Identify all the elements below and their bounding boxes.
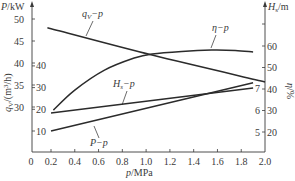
left-axis-arrow [30, 1, 34, 7]
x-axis-title: p/MPa [125, 167, 153, 178]
x-tick-label: 1.8 [235, 156, 248, 167]
x-tick-label: 0.2 [45, 156, 58, 167]
eta-tick-label: 20 [267, 127, 277, 138]
curve-label-qv: qV−p [82, 8, 103, 21]
right-axis-arrow [263, 1, 267, 7]
curve-label-eta: η−p [212, 22, 229, 33]
hs-axis-title: Hs/m [267, 1, 289, 14]
x-tick-label: 1.6 [211, 156, 224, 167]
leader-eta [211, 35, 216, 48]
x-tick-label: 0 [29, 156, 34, 167]
hs-tick-label: 6 [255, 105, 260, 116]
p-tick-label: 20 [36, 104, 46, 115]
hs-tick-label: 7 [255, 83, 260, 94]
eta-tick-label: 60 [267, 41, 277, 52]
hs-p-curve [51, 88, 253, 113]
leader-hs [122, 91, 127, 105]
eta-tick-label: 30 [267, 105, 277, 116]
qv-tick-label: 45 [14, 36, 24, 47]
eta-tick-label: 40 [267, 84, 277, 95]
x-tick-label: 0.4 [69, 156, 82, 167]
curve-label-P: P−p [89, 137, 108, 148]
curves [47, 28, 265, 131]
eta-tick-label: 50 [267, 62, 277, 73]
qv-p-curve [47, 28, 265, 82]
leader-qv [86, 21, 93, 36]
axis-ticks [32, 19, 265, 152]
qv-tick-label: 35 [14, 80, 24, 91]
curve-label-hs: Hs−p [112, 78, 135, 91]
x-tick-label: 1.2 [164, 156, 177, 167]
p-tick-label: 40 [36, 60, 46, 71]
p-kw-axis-title: P/kW [0, 1, 25, 12]
x-tick-label: 2.0 [259, 156, 272, 167]
x-tick-label: 1.4 [187, 156, 200, 167]
p-tick-label: 10 [36, 126, 46, 137]
x-tick-label: 0.6 [92, 156, 105, 167]
qv-tick-label: 50 [14, 14, 24, 25]
eta-axis-title: η/% [285, 83, 295, 99]
qv-tick-label: 40 [14, 58, 24, 69]
hs-tick-label: 5 [255, 127, 260, 138]
pump-performance-chart: 00.20.40.60.81.01.21.41.61.82.0504540353… [0, 0, 295, 181]
x-tick-label: 0.8 [116, 156, 129, 167]
x-tick-label: 1.0 [140, 156, 153, 167]
p-tick-label: 30 [36, 82, 46, 93]
qv-tick-label: 30 [14, 102, 24, 113]
power-p-curve [51, 83, 253, 131]
